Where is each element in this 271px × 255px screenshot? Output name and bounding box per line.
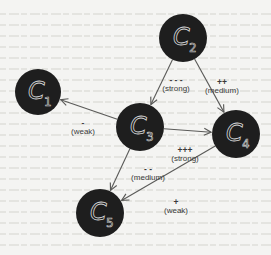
node-letter: C — [173, 23, 190, 51]
node-subscript: 5 — [106, 216, 114, 230]
edge-label: -(weak) — [71, 118, 95, 136]
node-c3[interactable]: C3 — [116, 103, 164, 151]
edge-c3-to-c4 — [164, 129, 211, 132]
edge-strength-label: (medium) — [131, 173, 165, 182]
node-subscript: 3 — [146, 130, 154, 144]
edge-strength-label: (weak) — [71, 127, 95, 136]
edge-strength-label: (weak) — [164, 206, 188, 215]
causal-network-diagram: C1C2C3C4C5 - - -(strong)++(medium)-(weak… — [0, 0, 271, 255]
edge-strength-label: (medium) — [205, 86, 239, 95]
node-letter: C — [226, 119, 243, 147]
node-subscript: 4 — [242, 137, 250, 151]
edge-strength-label: (strong) — [171, 154, 199, 163]
edge-strength-label: (strong) — [162, 84, 190, 93]
diagram-canvas: C1C2C3C4C5 - - -(strong)++(medium)-(weak… — [0, 0, 271, 255]
node-subscript: 1 — [44, 95, 52, 109]
node-c4[interactable]: C4 — [212, 110, 260, 158]
node-c5[interactable]: C5 — [76, 189, 124, 237]
edge-label: +++(strong) — [171, 145, 199, 163]
edge-label: - - -(strong) — [162, 75, 190, 93]
node-c1[interactable]: C1 — [15, 69, 61, 115]
edge-label: +(weak) — [164, 197, 188, 215]
edge-label: - -(medium) — [131, 164, 165, 182]
node-letter: C — [130, 112, 147, 140]
node-c2[interactable]: C2 — [159, 14, 207, 62]
node-subscript: 2 — [189, 41, 197, 55]
node-letter: C — [28, 77, 45, 105]
edge-c3-to-c5 — [111, 149, 130, 191]
node-letter: C — [90, 198, 107, 226]
